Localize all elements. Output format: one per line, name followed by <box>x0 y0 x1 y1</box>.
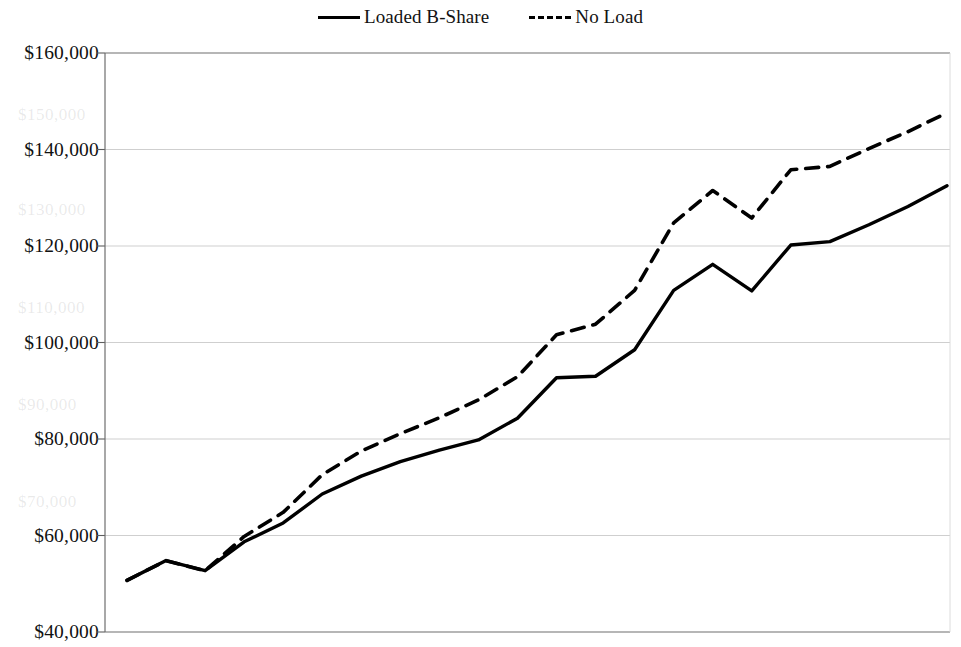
legend-entry-loaded-b-share: Loaded B-Share <box>318 6 489 28</box>
series-layer <box>127 113 947 581</box>
chart-figure: Loaded B-Share No Load $40,000$60,000$80… <box>0 0 961 647</box>
plot-area <box>0 34 961 647</box>
legend-label-loaded-b-share: Loaded B-Share <box>364 6 489 28</box>
series-line-loaded-b-share <box>127 186 947 581</box>
dashed-line-swatch <box>529 11 571 23</box>
legend-entry-no-load: No Load <box>529 6 643 28</box>
legend-label-no-load: No Load <box>575 6 643 28</box>
gridlines <box>96 53 950 632</box>
solid-line-swatch <box>318 11 360 23</box>
plot-svg <box>0 34 961 647</box>
chart-legend: Loaded B-Share No Load <box>0 0 961 34</box>
series-line-no-load <box>127 113 947 581</box>
